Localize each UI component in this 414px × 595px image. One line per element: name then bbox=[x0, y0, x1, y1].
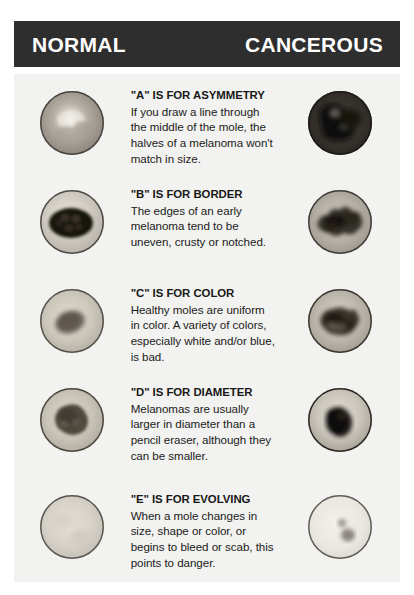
cancerous-mole-color bbox=[306, 287, 374, 355]
row-term: "E" IS FOR EVOLVING bbox=[131, 492, 276, 507]
column-header-bar: NORMAL CANCEROUS bbox=[14, 21, 400, 67]
normal-mole-diameter bbox=[38, 386, 106, 454]
cancerous-mole-diameter bbox=[306, 386, 374, 454]
abcde-row: "A" IS FOR ASYMMETRY If you draw a line … bbox=[14, 78, 400, 177]
row-text: "B" IS FOR BORDER The edges of an early … bbox=[131, 177, 280, 250]
cancerous-mole-border bbox=[306, 188, 374, 256]
normal-mole-color bbox=[38, 287, 106, 355]
cancerous-mole-evolving bbox=[306, 493, 374, 561]
cancerous-image-cell bbox=[280, 78, 400, 157]
cancerous-mole-asymmetry bbox=[306, 89, 374, 157]
row-term: "B" IS FOR BORDER bbox=[131, 187, 276, 202]
cancerous-image-cell bbox=[280, 276, 400, 355]
row-text: "E" IS FOR EVOLVING When a mole changes … bbox=[131, 474, 280, 571]
abcde-row: "C" IS FOR COLOR Healthy moles are unifo… bbox=[14, 276, 400, 375]
normal-image-cell bbox=[14, 276, 131, 355]
row-term: "C" IS FOR COLOR bbox=[131, 286, 276, 301]
normal-mole-border bbox=[38, 188, 106, 256]
row-description: When a mole changes in size, shape or co… bbox=[131, 508, 276, 571]
normal-mole-evolving bbox=[38, 493, 106, 561]
row-description: The edges of an early melanoma tend to b… bbox=[131, 203, 276, 250]
row-text: "A" IS FOR ASYMMETRY If you draw a line … bbox=[131, 78, 280, 167]
cancerous-image-cell bbox=[280, 474, 400, 561]
abcde-rows: "A" IS FOR ASYMMETRY If you draw a line … bbox=[14, 78, 400, 586]
row-description: Melanomas are usually larger in diameter… bbox=[131, 401, 276, 464]
row-description: Healthy moles are uniform in color. A va… bbox=[131, 302, 276, 365]
abcde-melanoma-infographic: NORMAL CANCEROUS bbox=[0, 0, 414, 595]
row-description: If you draw a line through the middle of… bbox=[131, 104, 276, 167]
row-term: "A" IS FOR ASYMMETRY bbox=[131, 88, 276, 103]
normal-mole-asymmetry bbox=[38, 89, 106, 157]
abcde-row: "E" IS FOR EVOLVING When a mole changes … bbox=[14, 474, 400, 586]
cancerous-image-cell bbox=[280, 375, 400, 454]
row-text: "C" IS FOR COLOR Healthy moles are unifo… bbox=[131, 276, 280, 365]
normal-image-cell bbox=[14, 375, 131, 454]
normal-image-cell bbox=[14, 474, 131, 561]
column-header-cancerous: CANCEROUS bbox=[245, 34, 383, 55]
abcde-row: "B" IS FOR BORDER The edges of an early … bbox=[14, 177, 400, 276]
column-header-normal: NORMAL bbox=[32, 34, 126, 55]
cancerous-image-cell bbox=[280, 177, 400, 256]
row-term: "D" IS FOR DIAMETER bbox=[131, 385, 276, 400]
abcde-row: "D" IS FOR DIAMETER Melanomas are usuall… bbox=[14, 375, 400, 474]
row-text: "D" IS FOR DIAMETER Melanomas are usuall… bbox=[131, 375, 280, 464]
normal-image-cell bbox=[14, 78, 131, 157]
normal-image-cell bbox=[14, 177, 131, 256]
